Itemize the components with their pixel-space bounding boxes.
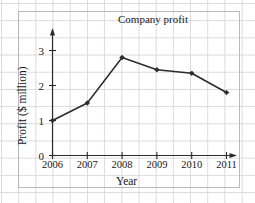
line-chart-plot [0, 0, 255, 203]
x-axis-title: Year [116, 176, 137, 188]
x-tick-label-2009: 2009 [140, 160, 174, 171]
profit-series-line [53, 58, 227, 121]
x-tick-label-2007: 2007 [70, 160, 104, 171]
y-tick-label-1: 1 [30, 116, 44, 127]
data-point-2009 [155, 67, 160, 72]
y-tick-label-3: 3 [30, 46, 44, 57]
y-axis-arrowhead [50, 28, 55, 36]
profit-series-markers [50, 55, 229, 123]
chart-figure: Company profit Profit ($ million) Year 0… [0, 0, 255, 203]
y-tick-label-2: 2 [30, 81, 44, 92]
x-tick-label-2008: 2008 [105, 160, 139, 171]
x-tick-label-2010: 2010 [175, 160, 209, 171]
x-axis-arrowhead [230, 153, 238, 158]
chart-title: Company profit [118, 14, 188, 25]
x-tick-label-2006: 2006 [36, 160, 70, 171]
x-tick-label-2011: 2011 [210, 160, 244, 171]
y-axis-title: Profit ($ million) [17, 54, 29, 158]
